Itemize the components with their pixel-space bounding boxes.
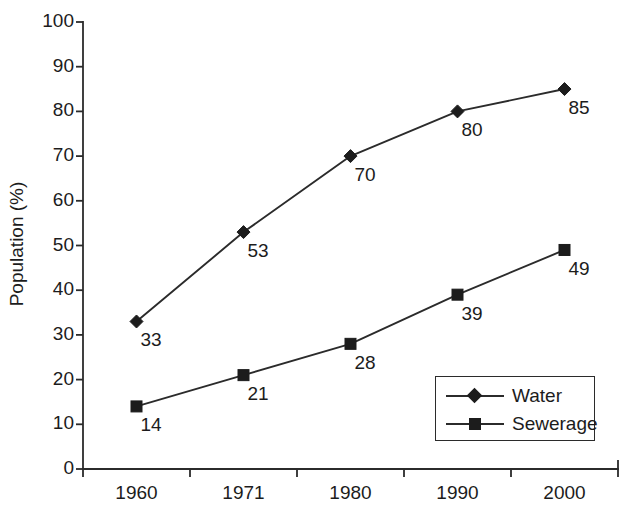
x-axis-tick-label: 1980 bbox=[301, 482, 401, 504]
data-point-marker bbox=[238, 370, 249, 381]
x-axis-tick-label: 1971 bbox=[194, 482, 294, 504]
data-point-label: 53 bbox=[248, 240, 269, 262]
series-lines bbox=[130, 83, 571, 412]
data-point-marker bbox=[344, 150, 357, 163]
line-chart: Population (%) 0102030405060708090100 19… bbox=[0, 0, 623, 510]
data-point-label: 85 bbox=[569, 97, 590, 119]
y-axis-tick-label: 50 bbox=[0, 234, 74, 256]
diamond-icon bbox=[467, 388, 483, 404]
data-point-label: 49 bbox=[569, 258, 590, 280]
water-marker-sample bbox=[446, 386, 504, 406]
square-icon bbox=[469, 418, 481, 430]
legend-label-sewerage: Sewerage bbox=[504, 413, 598, 435]
legend: Water Sewerage bbox=[435, 376, 595, 441]
data-point-marker bbox=[558, 83, 571, 96]
y-axis-tick-label: 60 bbox=[0, 189, 74, 211]
legend-item-water: Water bbox=[446, 383, 562, 409]
sewerage-marker-sample bbox=[446, 414, 504, 434]
data-point-marker bbox=[559, 244, 570, 255]
y-axis-tick-label: 10 bbox=[0, 412, 74, 434]
data-point-marker bbox=[451, 105, 464, 118]
data-point-label: 28 bbox=[355, 352, 376, 374]
legend-label-water: Water bbox=[504, 385, 562, 407]
y-axis-tick-label: 0 bbox=[0, 457, 74, 479]
y-axis-tick-label: 20 bbox=[0, 368, 74, 390]
y-axis-tick-label: 30 bbox=[0, 323, 74, 345]
x-axis-tick-label: 1990 bbox=[408, 482, 508, 504]
data-point-marker bbox=[345, 338, 356, 349]
data-point-label: 80 bbox=[462, 119, 483, 141]
data-point-label: 33 bbox=[141, 329, 162, 351]
data-point-marker bbox=[131, 401, 142, 412]
legend-item-sewerage: Sewerage bbox=[446, 411, 598, 437]
data-point-label: 14 bbox=[141, 414, 162, 436]
series-line-water bbox=[137, 89, 565, 321]
data-point-label: 70 bbox=[355, 164, 376, 186]
data-point-label: 21 bbox=[248, 383, 269, 405]
y-axis-tick-label: 40 bbox=[0, 278, 74, 300]
y-axis-tick-label: 70 bbox=[0, 144, 74, 166]
x-axis-tick-label: 2000 bbox=[515, 482, 615, 504]
y-axis-tick-label: 80 bbox=[0, 99, 74, 121]
x-axis-tick-label: 1960 bbox=[87, 482, 187, 504]
data-point-marker bbox=[452, 289, 463, 300]
y-axis-tick-label: 100 bbox=[0, 10, 74, 32]
data-point-label: 39 bbox=[462, 303, 483, 325]
y-axis-tick-label: 90 bbox=[0, 55, 74, 77]
